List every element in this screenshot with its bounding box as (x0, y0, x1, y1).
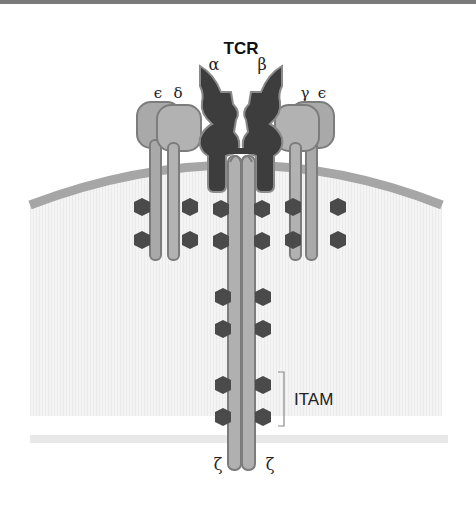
cd3-gamma-label: γ (301, 84, 310, 102)
zeta-left-label: ζ (214, 455, 223, 474)
tcr-title: TCR (224, 39, 259, 58)
alpha-label: α (209, 55, 220, 74)
zeta-dimer (228, 156, 255, 470)
cd3-epsilon-right-label: ϵ (318, 84, 326, 102)
beta-label: β (257, 55, 266, 74)
itam-label: ITAM (294, 390, 333, 409)
zeta-right-label: ζ (266, 455, 275, 474)
tcr-complex-diagram: TCR α β ϵ δ γ ϵ ζ ζ ITAM (0, 0, 476, 507)
cd3-delta-label: δ (173, 84, 182, 102)
cd3-epsilon-left-label: ϵ (154, 84, 162, 102)
